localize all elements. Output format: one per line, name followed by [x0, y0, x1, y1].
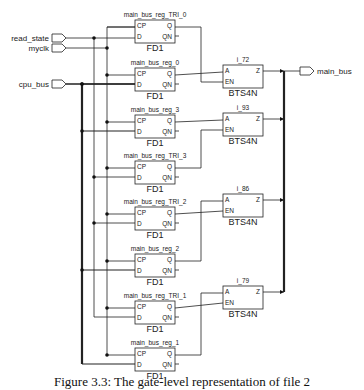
pin-d-label: D — [137, 33, 142, 40]
pin-cp-label: CP — [137, 256, 146, 263]
buffer-instance-label: i_93 — [237, 104, 250, 112]
junction-dot — [105, 166, 109, 170]
main_bus-port-label: main_bus — [317, 67, 352, 76]
pin-d-label: D — [137, 220, 142, 227]
ff-instance-label: main_bus_reg_1 — [131, 339, 180, 347]
ff-instance-label: main_bus_reg_0 — [131, 59, 180, 67]
pin-d-label: D — [137, 81, 142, 88]
buffer-type-label: BTS4N — [228, 217, 257, 227]
pin-q-label: Q — [167, 22, 172, 30]
ff-instance-label: main_bus_reg_TRI_0 — [124, 11, 187, 19]
ff-type-label: FD1 — [146, 230, 163, 240]
wire — [175, 130, 223, 168]
junction-dot — [92, 175, 96, 179]
pin-d-label: D — [137, 267, 142, 274]
buffer-instance-label: i_72 — [237, 56, 250, 64]
ff-instance-label: main_bus_reg_TRI_3 — [124, 152, 187, 160]
cpu_bus-input-port[interactable] — [52, 80, 66, 88]
pin-z-label: Z — [256, 288, 260, 295]
read_state-input-port[interactable] — [52, 34, 66, 42]
ff-instance-label: main_bus_reg_2 — [131, 245, 180, 253]
pin-en-label: EN — [225, 299, 234, 306]
junction-dot — [80, 268, 84, 272]
pin-qn-label: QN — [162, 220, 172, 228]
ff-instance-label: main_bus_reg_3 — [131, 106, 180, 114]
junction-dot — [92, 36, 96, 40]
pin-q-label: Q — [167, 256, 172, 264]
pin-qn-label: QN — [162, 361, 172, 369]
main_bus-output-port[interactable] — [300, 67, 314, 75]
junction-dot — [105, 306, 109, 310]
pin-cp-label: CP — [137, 117, 146, 124]
ff-type-label: FD1 — [146, 277, 163, 287]
junction-dot — [92, 221, 96, 225]
ff-type-label: FD1 — [146, 184, 163, 194]
pin-q-label: Q — [167, 70, 172, 78]
pin-z-label: Z — [256, 115, 260, 122]
ff-instance-label: main_bus_reg_TRI_1 — [124, 292, 187, 300]
pin-qn-label: QN — [162, 174, 172, 182]
buffer-instance-label: i_86 — [237, 185, 250, 193]
buffer-type-label: BTS4N — [228, 88, 257, 98]
junction-dot — [80, 129, 84, 133]
pin-en-label: EN — [225, 78, 234, 85]
ff-instance-label: main_bus_reg_TRI_2 — [124, 198, 187, 206]
wire — [175, 201, 223, 261]
read_state-port-label: read_state — [11, 34, 49, 43]
pin-cp-label: CP — [137, 303, 146, 310]
buffer-type-label: BTS4N — [228, 136, 257, 146]
pin-qn-label: QN — [162, 314, 172, 322]
buffer-type-label: BTS4N — [228, 309, 257, 319]
buffer-instance-label: i_79 — [237, 277, 250, 285]
pin-q-label: Q — [167, 209, 172, 217]
pin-qn-label: QN — [162, 81, 172, 89]
junction-dot — [105, 353, 109, 357]
pin-q-label: Q — [167, 117, 172, 125]
pin-cp-label: CP — [137, 209, 146, 216]
junction-dot — [80, 82, 84, 86]
pin-cp-label: CP — [137, 163, 146, 170]
pin-q-label: Q — [167, 350, 172, 358]
pin-cp-label: CP — [137, 22, 146, 29]
wire — [175, 120, 223, 122]
pin-d-label: D — [137, 314, 142, 321]
pin-qn-label: QN — [162, 33, 172, 41]
pin-a-label: A — [225, 67, 230, 74]
pin-q-label: Q — [167, 303, 172, 311]
myclk-port-label: myclk — [29, 44, 50, 53]
wire — [175, 211, 223, 214]
pin-en-label: EN — [225, 126, 234, 133]
pin-z-label: Z — [256, 196, 260, 203]
pin-d-label: D — [137, 174, 142, 181]
pin-qn-label: QN — [162, 128, 172, 136]
wire — [175, 72, 223, 75]
pin-cp-label: CP — [137, 350, 146, 357]
junction-dot — [105, 46, 109, 50]
cpu_bus-port-label: cpu_bus — [19, 80, 49, 89]
pin-z-label: Z — [256, 67, 260, 74]
pin-cp-label: CP — [137, 70, 146, 77]
pin-a-label: A — [225, 288, 230, 295]
junction-dot — [105, 212, 109, 216]
pin-q-label: Q — [167, 163, 172, 171]
junction-dot — [105, 120, 109, 124]
ff-type-label: FD1 — [146, 43, 163, 53]
wire — [175, 303, 223, 308]
pin-d-label: D — [137, 361, 142, 368]
pin-en-label: EN — [225, 207, 234, 214]
pin-d-label: D — [137, 128, 142, 135]
pin-qn-label: QN — [162, 267, 172, 275]
junction-dot — [105, 73, 109, 77]
junction-dot — [105, 259, 109, 263]
figure-caption: Figure 3.3: The gate-level representatio… — [0, 374, 364, 390]
myclk-input-port[interactable] — [52, 44, 66, 52]
ff-type-label: FD1 — [146, 91, 163, 101]
wire — [175, 293, 223, 355]
pin-a-label: A — [225, 115, 230, 122]
pin-a-label: A — [225, 196, 230, 203]
ff-type-label: FD1 — [146, 138, 163, 148]
ff-type-label: FD1 — [146, 324, 163, 334]
